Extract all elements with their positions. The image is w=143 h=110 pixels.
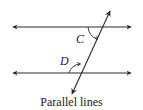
figure-caption: Parallel lines [0,96,143,109]
angle-c-label: C [76,33,84,45]
transversal-line [72,11,110,94]
parallel-lines-diagram [0,0,143,110]
parallel-lines-figure: C D Parallel lines [0,0,143,110]
angle-d-label: D [60,55,69,67]
angle-c-arc [88,27,97,39]
angle-c-arrowhead [95,36,98,40]
